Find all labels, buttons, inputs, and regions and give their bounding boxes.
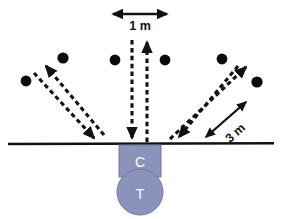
offset-dimension-group: 3 m [206, 102, 248, 145]
ray-down-left-right [179, 66, 238, 137]
geophone-5 [217, 54, 228, 65]
spacing-label-1m: 1 m [129, 19, 151, 33]
spacing-dimension-group: 1 m [113, 14, 167, 33]
geophone-1 [21, 76, 32, 87]
geophone-4 [160, 55, 171, 66]
schematic-canvas: 1 m 3 m C [0, 0, 283, 219]
offset-label-3m: 3 m [223, 121, 248, 146]
ray-down-right [34, 73, 94, 138]
ray-up-left [46, 66, 104, 135]
equipment-group: C T [117, 145, 163, 215]
seismic-schematic-figure: 1 m 3 m C [0, 0, 283, 219]
geophone-6 [251, 76, 262, 87]
tool-label: T [136, 186, 145, 202]
geophone-3 [110, 55, 121, 66]
geophone-2 [57, 52, 68, 63]
ground-surface-line [8, 143, 274, 144]
cable-head-label: C [135, 154, 145, 170]
